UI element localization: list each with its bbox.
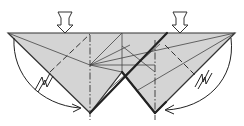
push-arrow-left-icon bbox=[57, 12, 73, 33]
origami-diagram bbox=[0, 0, 244, 126]
lightning-symbol-right-icon bbox=[195, 70, 212, 89]
lightning-symbol-left-icon bbox=[35, 73, 53, 92]
push-arrow-right-icon bbox=[172, 12, 188, 33]
